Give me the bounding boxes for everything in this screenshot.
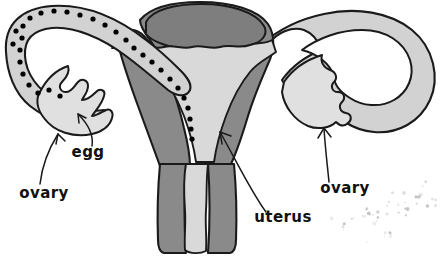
diagram-label-ovary-left: ovary: [19, 184, 68, 202]
speckle: [406, 207, 410, 211]
diagram-label-egg: egg: [72, 143, 105, 161]
egg-dot: [189, 136, 194, 141]
egg-dot: [102, 22, 107, 27]
egg-dot: [123, 37, 128, 42]
speckle: [377, 216, 380, 219]
cervical-canal: [184, 164, 208, 253]
speckle: [366, 241, 367, 242]
egg-dot: [149, 59, 154, 64]
speckle: [369, 213, 371, 215]
speckle: [343, 222, 346, 225]
speckle: [387, 205, 389, 207]
speckle: [372, 214, 373, 215]
egg-dot: [26, 82, 31, 87]
egg-dot: [46, 87, 51, 92]
egg-dot: [187, 116, 192, 121]
speckle: [391, 191, 394, 194]
egg-dot: [27, 15, 32, 20]
ovary-right-leader-line: [324, 128, 329, 182]
diagram-label-uterus: uterus: [254, 208, 311, 226]
egg-dot: [20, 71, 25, 76]
egg-dot: [113, 29, 118, 34]
cervix-vagina-group: [158, 164, 237, 253]
speckle: [415, 196, 416, 197]
egg-dot: [64, 9, 69, 14]
egg-dot: [19, 35, 24, 40]
egg-dot: [175, 85, 180, 90]
anatomy-diagram-svg: eggovaryuterusovary: [0, 0, 443, 259]
right-adnexa-group: [262, 11, 435, 132]
egg-dot: [90, 16, 95, 21]
diagram-label-ovary-right: ovary: [320, 179, 369, 197]
speckle: [376, 210, 380, 214]
egg-dot: [57, 93, 62, 98]
egg-dot: [51, 8, 56, 13]
left-ovary: [37, 66, 112, 135]
ovary-left-arrowhead: [56, 134, 65, 144]
egg-dot: [20, 23, 25, 28]
speckle: [389, 232, 392, 235]
egg-dot: [140, 52, 145, 57]
egg-dot: [10, 41, 15, 46]
speckle: [362, 215, 363, 216]
speckle: [397, 211, 400, 214]
egg-dot: [77, 12, 82, 17]
speckle: [405, 214, 407, 216]
speckle: [389, 235, 392, 238]
speckle: [353, 217, 354, 218]
speckle: [388, 201, 390, 203]
speckle: [404, 202, 405, 203]
speckle: [416, 203, 418, 205]
egg-dot: [35, 90, 40, 95]
reproductive-system-figure: eggovaryuterusovary egg ovary uterus ova…: [0, 0, 443, 259]
egg-dot: [181, 95, 186, 100]
speckle: [402, 191, 406, 195]
egg-dot: [158, 67, 163, 72]
egg-dot: [17, 59, 22, 64]
egg-dot: [38, 10, 43, 15]
speckle: [342, 225, 345, 228]
speckle: [397, 204, 399, 206]
speckle: [431, 197, 434, 200]
speckle: [386, 213, 389, 216]
cervix-right-wall: [208, 164, 236, 253]
speckle: [424, 180, 427, 183]
speckle: [384, 232, 387, 235]
speckle: [419, 193, 423, 197]
speckle: [434, 204, 437, 207]
speckle: [422, 185, 424, 187]
egg-dot: [131, 45, 136, 50]
ovary-left-leader-line: [40, 134, 58, 184]
egg-dot: [185, 105, 190, 110]
speckle: [435, 199, 437, 201]
speckle: [343, 229, 344, 230]
speckle: [376, 220, 377, 221]
speckle: [351, 218, 353, 220]
speckle: [426, 204, 429, 207]
speckle: [330, 217, 334, 221]
speckle: [363, 215, 366, 218]
speckle: [345, 222, 347, 224]
egg-dot: [188, 126, 193, 131]
egg-dot: [17, 47, 22, 52]
speckle: [373, 222, 377, 226]
speckle: [384, 236, 385, 237]
egg-dot: [167, 76, 172, 81]
egg-dot: [13, 28, 18, 33]
speckle: [366, 207, 369, 210]
cervix-left-wall: [158, 164, 186, 253]
uterus-group: [112, 2, 276, 166]
